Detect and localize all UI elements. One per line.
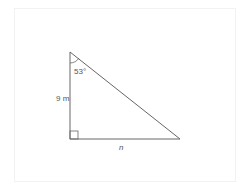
vertical-side-label: 9 m — [56, 94, 70, 103]
right-angle-marker-icon — [70, 131, 78, 139]
angle-arc-icon — [70, 58, 79, 63]
angle-label: 53° — [74, 67, 86, 76]
right-triangle-diagram: 53° 9 m n — [0, 0, 250, 189]
horizontal-side-label: n — [119, 143, 124, 152]
triangle — [70, 52, 180, 139]
